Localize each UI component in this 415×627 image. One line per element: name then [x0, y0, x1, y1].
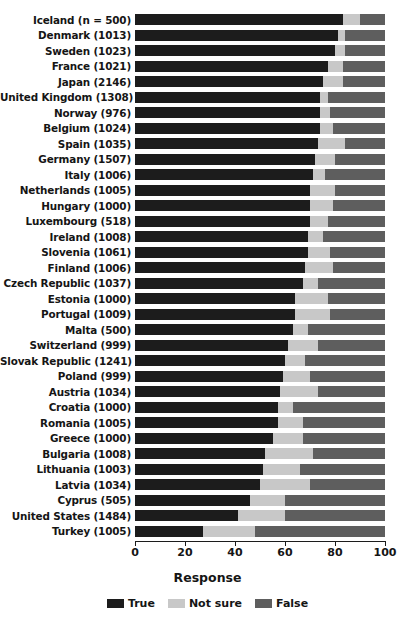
bar-segment-not-sure: [203, 526, 256, 537]
category-label: Norway (976): [0, 108, 131, 118]
category-label: Slovenia (1061): [0, 247, 131, 257]
category-label: Ireland (1008): [0, 232, 131, 242]
bar-segment-true: [135, 262, 305, 273]
bar-segment-false: [323, 231, 386, 242]
category-label: Romania (1005): [0, 418, 131, 428]
bar-segment-true: [135, 464, 263, 475]
bar-row: [135, 45, 385, 56]
bar-row: [135, 231, 385, 242]
bar-segment-true: [135, 123, 320, 134]
bar-segment-not-sure: [320, 92, 328, 103]
bar-segment-false: [300, 464, 385, 475]
bar-segment-false: [343, 61, 386, 72]
bar-segment-false: [293, 402, 386, 413]
x-tick-label: 100: [374, 547, 397, 558]
category-label: Japan (2146): [0, 77, 131, 87]
bar-row: [135, 355, 385, 366]
chart-legend: TrueNot sureFalse: [0, 598, 415, 609]
category-label: Hungary (1000): [0, 201, 131, 211]
bar-segment-true: [135, 107, 320, 118]
category-label: Croatia (1000): [0, 402, 131, 412]
bar-segment-not-sure: [278, 417, 303, 428]
legend-swatch-icon: [255, 599, 272, 608]
bar-segment-true: [135, 355, 285, 366]
bar-segment-false: [285, 510, 385, 521]
bar-segment-false: [360, 14, 385, 25]
category-label: Germany (1507): [0, 154, 131, 164]
category-label: Cyprus (505): [0, 495, 131, 505]
category-label: Portugal (1009): [0, 309, 131, 319]
bar-segment-false: [343, 76, 386, 87]
bar-row: [135, 371, 385, 382]
bar-row: [135, 216, 385, 227]
bar-row: [135, 324, 385, 335]
bar-segment-not-sure: [323, 76, 343, 87]
bar-segment-not-sure: [278, 402, 293, 413]
category-label: United States (1484): [0, 511, 131, 521]
bar-segment-false: [345, 30, 385, 41]
bar-segment-not-sure: [328, 61, 343, 72]
bar-segment-not-sure: [320, 107, 330, 118]
bar-segment-false: [325, 169, 385, 180]
bar-segment-false: [345, 45, 385, 56]
bar-segment-true: [135, 30, 338, 41]
bar-segment-not-sure: [310, 185, 335, 196]
legend-item-not-sure: Not sure: [168, 598, 242, 609]
category-label: Lithuania (1003): [0, 464, 131, 474]
bar-segment-not-sure: [293, 324, 308, 335]
bar-segment-not-sure: [305, 262, 333, 273]
bar-segment-not-sure: [280, 386, 318, 397]
category-label: Denmark (1013): [0, 30, 131, 40]
bar-row: [135, 479, 385, 490]
bar-segment-true: [135, 433, 273, 444]
bar-segment-false: [310, 371, 385, 382]
bar-row: [135, 464, 385, 475]
bar-segment-not-sure: [315, 154, 335, 165]
bar-segment-true: [135, 76, 323, 87]
bar-segment-not-sure: [308, 247, 331, 258]
category-label-column: Iceland (n = 500)Denmark (1013)Sweden (1…: [0, 14, 131, 541]
bar-row: [135, 138, 385, 149]
bar-row: [135, 262, 385, 273]
bar-segment-not-sure: [335, 45, 345, 56]
bar-segment-false: [305, 355, 385, 366]
bar-row: [135, 526, 385, 537]
bar-segment-true: [135, 14, 343, 25]
bar-row: [135, 154, 385, 165]
legend-item-true: True: [107, 598, 155, 609]
bar-segment-not-sure: [318, 138, 346, 149]
bar-segment-false: [333, 123, 386, 134]
bar-segment-not-sure: [273, 433, 303, 444]
legend-label: Not sure: [189, 598, 242, 609]
bar-segment-not-sure: [310, 200, 333, 211]
category-label: Bulgaria (1008): [0, 449, 131, 459]
bar-segment-false: [308, 324, 386, 335]
bar-segment-false: [313, 448, 386, 459]
category-label: Spain (1035): [0, 139, 131, 149]
bar-segment-true: [135, 479, 260, 490]
category-label: Latvia (1034): [0, 480, 131, 490]
bar-row: [135, 169, 385, 180]
bar-segment-not-sure: [288, 340, 318, 351]
bar-row: [135, 30, 385, 41]
category-label: Finland (1006): [0, 263, 131, 273]
category-label: Italy (1006): [0, 170, 131, 180]
category-label: Estonia (1000): [0, 294, 131, 304]
bar-segment-not-sure: [263, 464, 301, 475]
bar-segment-true: [135, 293, 295, 304]
bar-segment-false: [330, 247, 385, 258]
bar-row: [135, 92, 385, 103]
bar-segment-true: [135, 216, 310, 227]
bar-segment-false: [330, 309, 385, 320]
bar-segment-true: [135, 386, 280, 397]
bar-segment-true: [135, 402, 278, 413]
bar-segment-true: [135, 200, 310, 211]
legend-item-false: False: [255, 598, 308, 609]
bar-segment-false: [255, 526, 385, 537]
bar-segment-false: [333, 200, 386, 211]
bar-segment-true: [135, 169, 313, 180]
x-tick-label: 40: [227, 547, 242, 558]
bar-row: [135, 495, 385, 506]
category-label: Poland (999): [0, 371, 131, 381]
bar-segment-not-sure: [265, 448, 313, 459]
